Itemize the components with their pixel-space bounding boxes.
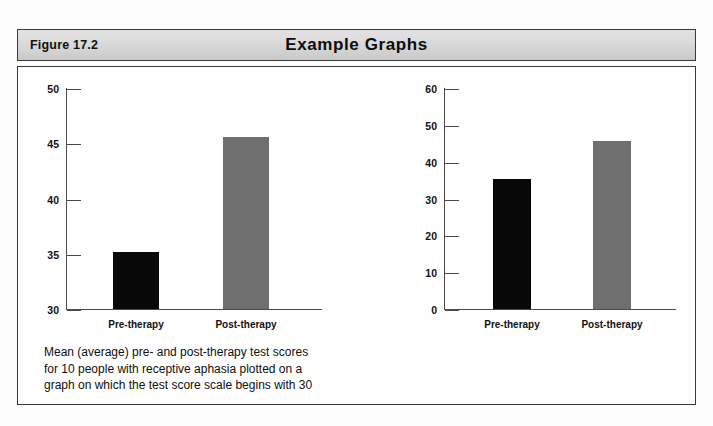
bar-pre-therapy <box>113 252 159 309</box>
y-tick-label: 40 <box>425 157 437 169</box>
figure-page: Figure 17.2 Example Graphs 3035404550Pre… <box>0 0 713 426</box>
y-tick-mark <box>67 144 81 145</box>
y-tick-label: 20 <box>425 230 437 242</box>
y-tick-mark <box>445 126 459 127</box>
y-tick-mark <box>445 200 459 201</box>
y-tick-mark <box>67 200 81 201</box>
panel-right: 0102030405060Pre-therapyPost-therapy Mea… <box>404 67 697 404</box>
bar-pre-therapy <box>493 179 531 309</box>
figure-title: Example Graphs <box>18 35 695 55</box>
y-tick-label: 60 <box>425 83 437 95</box>
y-tick-label: 30 <box>47 304 59 316</box>
y-tick-label: 45 <box>47 138 59 150</box>
figure-header-bar: Figure 17.2 Example Graphs <box>17 29 696 61</box>
y-tick-label: 50 <box>425 120 437 132</box>
bar-post-therapy <box>593 141 631 309</box>
x-category-label: Pre-therapy <box>484 319 540 330</box>
y-tick-mark <box>67 310 81 311</box>
y-tick-mark <box>445 273 459 274</box>
right-chart-x-axis <box>444 309 676 310</box>
x-category-label: Post-therapy <box>215 319 276 330</box>
y-tick-label: 10 <box>425 267 437 279</box>
y-tick-mark <box>445 236 459 237</box>
right-chart-plot-area: 0102030405060Pre-therapyPost-therapy <box>444 88 676 310</box>
y-tick-label: 50 <box>47 83 59 95</box>
y-tick-mark <box>445 163 459 164</box>
y-tick-label: 0 <box>431 304 437 316</box>
y-tick-mark <box>67 89 81 90</box>
panel-left: 3035404550Pre-therapyPost-therapy Mean (… <box>18 67 408 404</box>
left-chart-x-axis <box>66 309 322 310</box>
y-tick-label: 30 <box>425 194 437 206</box>
x-category-label: Pre-therapy <box>108 319 164 330</box>
left-chart-caption: Mean (average) pre- and post-therapy tes… <box>44 344 374 394</box>
left-chart-plot-area: 3035404550Pre-therapyPost-therapy <box>66 88 322 310</box>
bar-post-therapy <box>223 137 269 309</box>
y-tick-label: 35 <box>47 249 59 261</box>
x-category-label: Post-therapy <box>581 319 642 330</box>
y-tick-mark <box>67 255 81 256</box>
figure-body: 3035404550Pre-therapyPost-therapy Mean (… <box>17 66 696 405</box>
y-tick-mark <box>445 89 459 90</box>
y-tick-mark <box>445 310 459 311</box>
y-tick-label: 40 <box>47 194 59 206</box>
